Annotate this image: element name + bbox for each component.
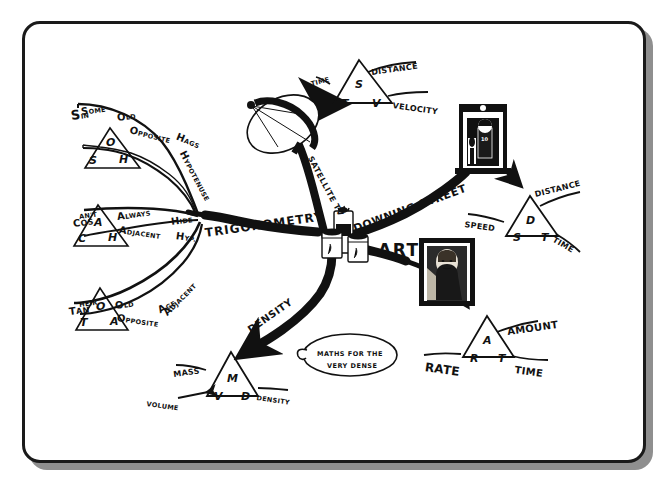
mind-map-canvas: SIN SOME OLD OPPOSITE HAGS HYPOTENUSE O … — [0, 0, 663, 483]
mona-lisa-illustration — [419, 238, 475, 306]
downing-street-branch — [340, 162, 558, 238]
mind-map-drawing — [0, 0, 663, 483]
rate-triangle-shape — [424, 321, 548, 360]
velocity-triangle-shape — [316, 60, 428, 103]
density-triangle-shape — [176, 365, 288, 398]
satellite-dish-illustration — [237, 83, 329, 165]
speed-triangle-shape — [468, 192, 580, 252]
trigonometry-branch — [188, 212, 318, 232]
sin-sub-branch — [78, 104, 198, 214]
speech-bubble-shape — [297, 334, 397, 376]
cos-sub-branch — [74, 205, 198, 246]
paint-cans-illustration — [322, 206, 368, 262]
density-branch — [207, 254, 332, 396]
tan-sub-branch — [74, 222, 202, 330]
downing-street-door-illustration — [455, 104, 511, 174]
